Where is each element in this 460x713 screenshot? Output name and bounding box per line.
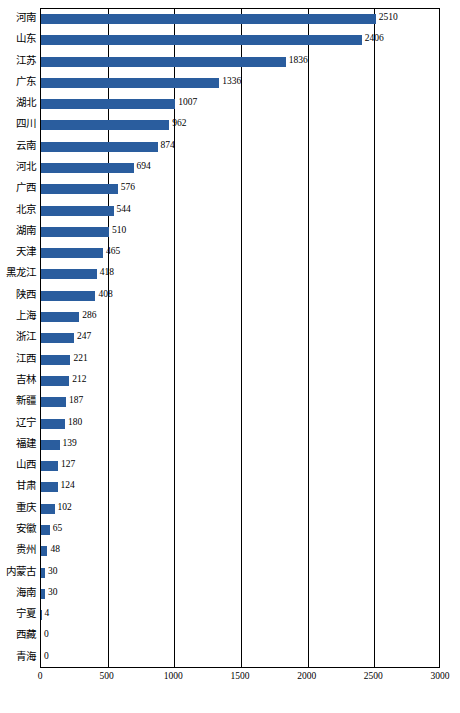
category-label: 安徽 <box>16 521 36 535</box>
bar-value-label: 0 <box>44 650 49 662</box>
category-label: 湖北 <box>16 95 36 109</box>
bar-row: 河南2510 <box>41 9 439 30</box>
bar-row: 西藏0 <box>41 626 439 647</box>
bar-value-label: 2510 <box>379 11 398 23</box>
bar <box>41 120 169 130</box>
bar-value-label: 127 <box>61 458 75 470</box>
bar-value-label: 2406 <box>365 32 384 44</box>
category-label: 福建 <box>16 436 36 450</box>
bar-row: 安徽65 <box>41 520 439 541</box>
bar-row: 天津465 <box>41 243 439 264</box>
category-label: 吉林 <box>16 372 36 386</box>
bar-value-label: 1336 <box>222 75 241 87</box>
bar <box>41 78 219 88</box>
category-label: 北京 <box>16 202 36 216</box>
bar <box>41 568 45 578</box>
bar-value-label: 286 <box>82 309 96 321</box>
category-label: 重庆 <box>16 500 36 514</box>
bar <box>41 440 60 450</box>
bar-row: 内蒙古30 <box>41 563 439 584</box>
category-label: 宁夏 <box>16 606 36 620</box>
bar-value-label: 874 <box>161 139 175 151</box>
bar-row: 四川962 <box>41 115 439 136</box>
bar <box>41 333 74 343</box>
bar-row: 山东2406 <box>41 30 439 51</box>
category-label: 浙江 <box>16 329 36 343</box>
bar-value-label: 187 <box>69 394 83 406</box>
bar <box>41 269 97 279</box>
bar-chart: 河南2510山东2406江苏1836广东1336湖北1007四川962云南874… <box>0 0 460 713</box>
bar <box>41 482 58 492</box>
category-label: 云南 <box>16 138 36 152</box>
bar-value-label: 418 <box>100 266 114 278</box>
bar-row: 海南30 <box>41 584 439 605</box>
category-label: 新疆 <box>16 393 36 407</box>
bar <box>41 504 55 514</box>
bar-row: 甘肃124 <box>41 477 439 498</box>
x-tick-label: 1500 <box>231 670 250 682</box>
bar-row: 湖北1007 <box>41 94 439 115</box>
bar-row: 宁夏4 <box>41 605 439 626</box>
bar-row: 江苏1836 <box>41 52 439 73</box>
x-tick-label: 500 <box>100 670 114 682</box>
bar <box>41 57 286 67</box>
bar <box>41 397 66 407</box>
bar <box>41 248 103 258</box>
bar <box>41 312 79 322</box>
bar <box>41 99 175 109</box>
category-label: 河北 <box>16 159 36 173</box>
category-label: 山东 <box>16 31 36 45</box>
bar <box>41 376 69 386</box>
bar-value-label: 124 <box>61 479 75 491</box>
category-label: 西藏 <box>16 627 36 641</box>
bar <box>41 546 47 556</box>
category-label: 江苏 <box>16 53 36 67</box>
category-label: 辽宁 <box>16 415 36 429</box>
bar <box>41 589 45 599</box>
category-label: 内蒙古 <box>6 564 36 578</box>
bar <box>41 35 362 45</box>
bar-value-label: 180 <box>68 416 82 428</box>
bar-row: 湖南510 <box>41 222 439 243</box>
x-tick-label: 1000 <box>164 670 183 682</box>
bar-row: 云南874 <box>41 137 439 158</box>
category-label: 山西 <box>16 457 36 471</box>
x-tick-label: 3000 <box>431 670 450 682</box>
bar-row: 辽宁180 <box>41 414 439 435</box>
bar-row: 陕西408 <box>41 286 439 307</box>
bar-row: 山西127 <box>41 456 439 477</box>
x-tick-label: 2000 <box>297 670 316 682</box>
bar-value-label: 102 <box>58 501 72 513</box>
plot-area: 河南2510山东2406江苏1836广东1336湖北1007四川962云南874… <box>40 8 440 668</box>
category-label: 海南 <box>16 585 36 599</box>
bar-row: 北京544 <box>41 201 439 222</box>
bar <box>41 163 134 173</box>
bar-value-label: 576 <box>121 181 135 193</box>
category-label: 贵州 <box>16 542 36 556</box>
category-label: 江西 <box>16 351 36 365</box>
bar <box>41 419 65 429</box>
bar-row: 广西576 <box>41 179 439 200</box>
bar-row: 江西221 <box>41 350 439 371</box>
bar-value-label: 510 <box>112 224 126 236</box>
bar-value-label: 30 <box>48 565 58 577</box>
category-label: 河南 <box>16 10 36 24</box>
bar-row: 青海0 <box>41 648 439 669</box>
bar-value-label: 4 <box>45 607 50 619</box>
bar <box>41 184 118 194</box>
category-label: 上海 <box>16 308 36 322</box>
bar-value-label: 962 <box>172 117 186 129</box>
bar-row: 重庆102 <box>41 499 439 520</box>
bar-value-label: 1007 <box>178 96 197 108</box>
category-label: 广东 <box>16 74 36 88</box>
bar-row: 吉林212 <box>41 371 439 392</box>
bar-value-label: 221 <box>73 352 87 364</box>
category-label: 天津 <box>16 244 36 258</box>
category-label: 甘肃 <box>16 478 36 492</box>
category-label: 四川 <box>16 116 36 130</box>
bar-row: 河北694 <box>41 158 439 179</box>
bar <box>41 525 50 535</box>
bar <box>41 14 376 24</box>
bar-row: 新疆187 <box>41 392 439 413</box>
bar-row: 广东1336 <box>41 73 439 94</box>
